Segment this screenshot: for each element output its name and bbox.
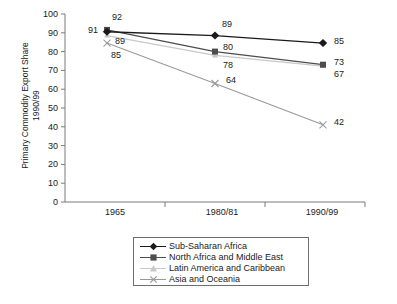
legend-item-sub-saharan-africa[interactable]: Sub-Saharan Africa — [140, 241, 308, 252]
data-label-lac-1980: 78 — [223, 60, 233, 70]
legend-marker-triangle-icon — [140, 263, 166, 274]
marker-square-1990 — [320, 62, 326, 68]
chart-container: Primary Commodity Export Share1990/99 10… — [0, 0, 397, 304]
x-tick-1965: 1965 — [105, 207, 125, 217]
legend-label-sub-saharan-africa: Sub-Saharan Africa — [169, 241, 247, 252]
data-label-lac-1990: 67 — [334, 69, 344, 79]
data-label-ao-1980: 64 — [226, 75, 236, 85]
x-tick-1990-99: 1990/99 — [306, 207, 339, 217]
legend-marker-cross-icon — [140, 274, 166, 285]
data-label-ao-1965: 85 — [111, 50, 121, 60]
data-label-nam-1965: 92 — [112, 12, 122, 22]
data-label-nam-1980: 80 — [223, 42, 233, 52]
legend-item-north-africa-and-middle-east[interactable]: North Africa and Middle East — [140, 252, 308, 263]
legend-label-north-africa-and-middle-east: North Africa and Middle East — [169, 252, 283, 263]
marker-diamond-1980 — [211, 32, 219, 40]
marker-diamond-1990 — [319, 39, 327, 47]
legend-label-latin-america-and-caribbean: Latin America and Caribbean — [169, 263, 285, 274]
data-label-lac-1965: 89 — [115, 36, 125, 46]
data-label-ssa-1980: 89 — [222, 19, 232, 29]
marker-cross-1980 — [212, 80, 219, 87]
data-label-ssa-1965: 91 — [88, 25, 98, 35]
legend-marker-diamond-icon — [140, 241, 166, 252]
data-label-ao-1990: 42 — [334, 117, 344, 127]
data-label-nam-1990: 73 — [334, 57, 344, 67]
marker-cross-1990 — [320, 121, 327, 128]
y-tick-marks — [61, 14, 65, 202]
legend-label-asia-and-oceania: Asia and Oceania — [169, 274, 240, 285]
legend-item-latin-america-and-caribbean[interactable]: Latin America and Caribbean — [140, 263, 308, 274]
legend: Sub-Saharan Africa North Africa and Midd… — [133, 237, 309, 286]
legend-marker-square-icon — [140, 252, 166, 263]
marker-square-1980 — [212, 49, 218, 55]
series-line-sub-saharan-africa — [103, 28, 327, 47]
marker-cross-1965 — [104, 40, 111, 47]
x-tick-1980-81: 1980/81 — [206, 207, 239, 217]
legend-item-asia-and-oceania[interactable]: Asia and Oceania — [140, 274, 308, 285]
data-label-ssa-1990: 85 — [334, 36, 344, 46]
